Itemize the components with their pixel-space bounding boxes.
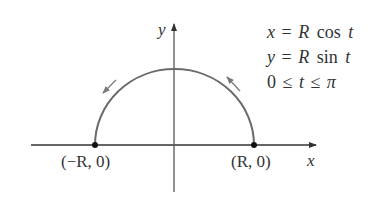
equation-y: y = R sin t	[265, 47, 351, 67]
semicircle-diagram: y x (−R, 0) (R, 0) x = R cos t y = R sin…	[0, 0, 386, 201]
x-axis-label: x	[306, 151, 315, 170]
direction-arrow-left-icon	[103, 80, 116, 93]
point-right-label: (R, 0)	[231, 152, 271, 171]
y-axis-label: y	[156, 20, 166, 39]
point-right-dot	[251, 142, 257, 148]
equation-t-range: 0 ≤ t ≤ π	[267, 72, 337, 92]
point-left-dot	[92, 142, 98, 148]
point-left-label: (−R, 0)	[61, 152, 110, 171]
equation-x: x = R cos t	[266, 22, 354, 42]
